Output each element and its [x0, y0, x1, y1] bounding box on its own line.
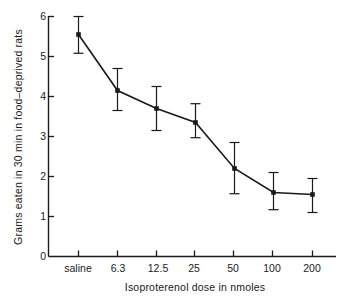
- data-point-marker: [310, 192, 315, 197]
- plot-area: [0, 0, 345, 303]
- data-point-marker: [76, 32, 81, 37]
- data-point-marker: [115, 88, 120, 93]
- data-point-marker: [193, 120, 198, 125]
- x-axis-ticks: [79, 251, 313, 257]
- error-bars: [74, 17, 318, 213]
- data-point-marker: [232, 166, 237, 171]
- chart-figure: Grams eaten in 30 min in food–deprived r…: [0, 0, 345, 303]
- y-axis-ticks: [49, 17, 55, 217]
- data-point-marker: [271, 190, 276, 195]
- data-point-marker: [154, 106, 159, 111]
